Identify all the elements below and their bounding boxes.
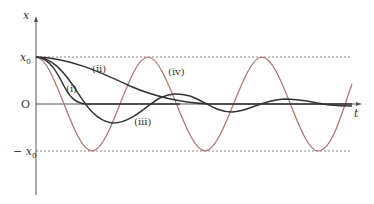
neg-x0-label: − x0: [13, 145, 36, 160]
x0-label: x0: [20, 51, 31, 66]
curve-iii-label: (iii): [134, 116, 151, 127]
y-axis-arrow-icon: [34, 16, 38, 22]
curve-ii-label: (ii): [92, 63, 106, 74]
curve-iv-label: (iv): [168, 66, 185, 77]
origin-label: O: [21, 98, 30, 111]
curve-i-critically-damped: [36, 57, 180, 104]
oscillation-diagram: x t O x0 − x0 (i) (ii) (iii) (iv): [0, 0, 374, 204]
y-axis-label: x: [23, 9, 30, 22]
x-axis-arrow-icon: [356, 102, 362, 106]
x-axis-label: t: [354, 107, 359, 120]
curve-i-label: (i): [66, 83, 77, 94]
